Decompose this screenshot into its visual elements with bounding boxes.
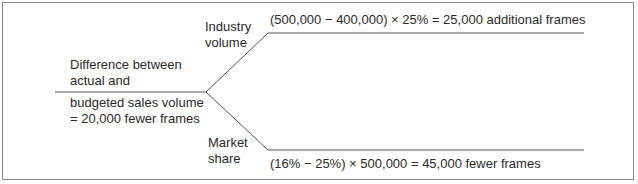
root-label-line-4: = 20,000 fewer frames: [70, 111, 200, 127]
branch-industry-name-2: volume: [205, 35, 247, 51]
branch-market-result: (16% − 25%) × 500,000 = 45,000 fewer fra…: [270, 156, 541, 172]
branch-industry-result: (500,000 − 400,000) × 25% = 25,000 addit…: [270, 12, 585, 28]
root-label-line-3: budgeted sales volume: [70, 95, 204, 111]
branch-market-name-2: share: [208, 151, 241, 167]
root-label-line-2: actual and: [70, 73, 130, 89]
upper-branch-line: [206, 33, 584, 92]
root-label-line-1: Difference between: [70, 57, 182, 73]
lower-branch-line: [206, 92, 584, 150]
branch-market-name-1: Market: [208, 135, 248, 151]
branch-industry-name-1: Industry: [205, 19, 251, 35]
